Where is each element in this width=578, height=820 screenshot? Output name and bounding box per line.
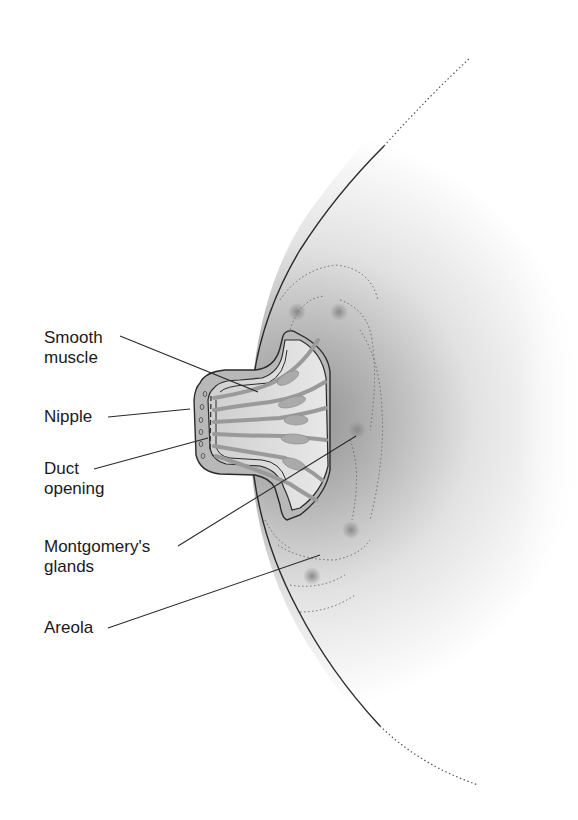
- label-montgomerys-glands: Montgomery's glands: [44, 537, 150, 577]
- label-smooth-muscle: Smooth muscle: [44, 328, 103, 368]
- leader-nipple: [108, 409, 190, 417]
- leader-duct-opening: [94, 438, 208, 469]
- leader-smooth-muscle: [120, 336, 258, 392]
- label-duct-opening: Duct opening: [44, 459, 105, 499]
- label-nipple: Nipple: [44, 407, 92, 427]
- label-areola: Areola: [44, 618, 93, 638]
- diagram-canvas: Smooth muscle Nipple Duct opening Montgo…: [0, 0, 578, 820]
